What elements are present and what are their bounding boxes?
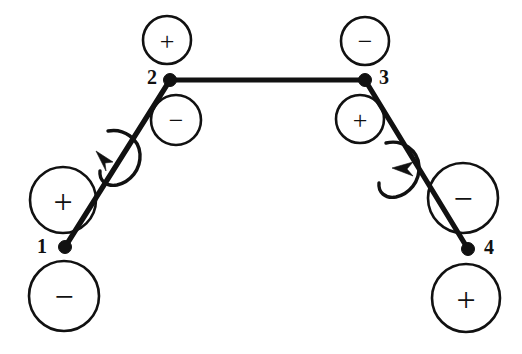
node-4: 4 <box>462 236 495 258</box>
node-2: 2 <box>147 66 177 88</box>
lobe-sign-minus: − <box>358 27 373 56</box>
node-3: 3 <box>359 66 390 88</box>
node-label-3: 3 <box>379 66 389 88</box>
lobe-sign-plus: + <box>53 183 72 220</box>
lobe-sign-minus: − <box>169 106 184 135</box>
node-label-2: 2 <box>147 66 157 88</box>
bond-1-2 <box>65 80 170 247</box>
diagram-canvas: + − − + + <box>0 0 522 354</box>
lobe-above-node3: − <box>341 17 389 65</box>
node-1: 1 <box>37 235 72 257</box>
lobe-below-node4: + <box>432 264 500 332</box>
torsion-arrowhead <box>96 151 113 171</box>
torsion-arrowhead <box>392 162 413 176</box>
node-dot <box>462 243 475 256</box>
lobe-below-node1: − <box>29 261 99 331</box>
torsion-arrow-right <box>379 142 419 197</box>
lobe-above-node2: + <box>143 16 191 64</box>
lobe-above-node1: + <box>30 167 96 233</box>
lobe-sign-plus: + <box>353 106 368 135</box>
lobe-sign-minus: − <box>54 278 73 315</box>
lobe-sign-plus: + <box>456 281 475 318</box>
node-dot <box>164 74 177 87</box>
molecular-diagram-svg: + − − + + <box>0 0 522 354</box>
node-label-4: 4 <box>484 236 494 258</box>
node-dot <box>59 241 72 254</box>
lobe-sign-plus: + <box>160 27 175 56</box>
node-label-1: 1 <box>37 235 47 257</box>
node-dot <box>359 74 372 87</box>
lobe-sign-minus: − <box>453 180 472 217</box>
